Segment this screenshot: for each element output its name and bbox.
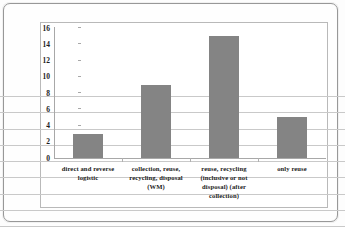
y-tick-label-8: 8 — [28, 90, 50, 98]
x-tick-2 — [190, 158, 191, 162]
x-tick-3 — [258, 158, 259, 162]
x-axis-ticks — [54, 158, 326, 162]
gridline-0 — [0, 226, 345, 227]
x-axis-category-labels: direct and reverse logisticcollection, r… — [40, 164, 328, 212]
y-tick-label-2: 2 — [28, 138, 50, 146]
bar-3 — [209, 36, 239, 158]
y-tick-label-10: 10 — [28, 73, 50, 81]
bar-2 — [141, 85, 171, 158]
y-axis-tick-labels: 0246810121416 — [26, 28, 50, 158]
x-label-1: direct and reverse logistic — [55, 164, 121, 182]
x-label-4: only reuse — [259, 164, 325, 173]
y-tick-label-14: 14 — [28, 41, 50, 49]
x-label-3: reuse, recycling (inclusive or not dispo… — [191, 164, 257, 200]
chart-page: 0246810121416 direct and reverse logisti… — [0, 0, 345, 227]
bar-1 — [73, 134, 103, 158]
bar-series — [54, 28, 326, 158]
x-tick-1 — [122, 158, 123, 162]
y-tick-label-6: 6 — [28, 106, 50, 114]
bar-4 — [277, 117, 307, 158]
y-tick-label-0: 0 — [28, 155, 50, 163]
x-label-2: collection, reuse, recycling, disposal (… — [123, 164, 189, 191]
y-tick-label-16: 16 — [28, 25, 50, 33]
y-tick-label-12: 12 — [28, 57, 50, 65]
y-tick-label-4: 4 — [28, 122, 50, 130]
